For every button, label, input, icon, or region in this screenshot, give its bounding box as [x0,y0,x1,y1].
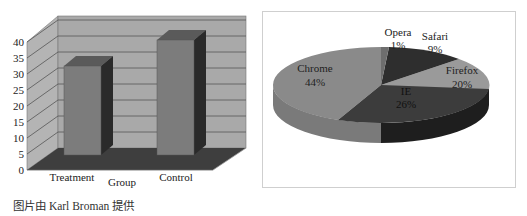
pie-chart-frame: Chrome 44% IE 26% Firefox 20% Safari 9% … [262,11,516,188]
y-tick-label: 0 [19,164,25,176]
bar-chart-floor [27,148,246,170]
pie-label-pct: 9% [428,43,443,55]
pie-label-name: IE [401,85,412,97]
x-tick-label: Treatment [50,171,95,183]
pie-label-name: Opera [385,26,412,38]
pie-chart: Chrome 44% IE 26% Firefox 20% Safari 9% … [263,12,517,189]
y-tick-label: 30 [13,68,25,80]
y-tick-label: 40 [13,36,25,48]
y-tick-label: 10 [13,132,25,144]
bar-chart: 0 5 10 15 20 25 30 35 40 Treatment Contr… [0,0,260,190]
pie-label-pct: 44% [305,76,325,88]
x-axis-title: Group [108,176,137,188]
pie-label-pct: 20% [452,78,472,90]
y-tick-label: 35 [13,52,25,64]
pie-label-name: 26% [396,98,416,110]
bar-control [157,30,206,155]
y-axis: 0 5 10 15 20 25 30 35 40 [13,36,25,176]
y-tick-label: 20 [13,100,25,112]
pie-label-name: Chrome [297,62,333,74]
y-tick-label: 15 [13,116,25,128]
y-tick-label: 25 [13,84,25,96]
pie-label-name: Firefox [446,64,479,76]
pie-label-name: Safari [422,30,448,42]
bar-treatment [64,56,113,155]
x-tick-label: Control [159,171,193,183]
y-tick-label: 5 [19,148,25,160]
pie-label-pct: 1% [391,39,406,51]
image-credit-caption: 图片由 Karl Broman 提供 [13,197,134,213]
